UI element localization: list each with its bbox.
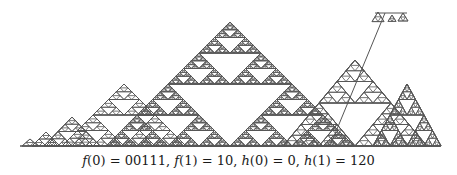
caption-part: h — [241, 153, 249, 168]
sierpinski-fractal-diagram — [0, 0, 457, 150]
caption-part: (0) = 0, — [250, 153, 304, 168]
caption-part: (1) = 120 — [312, 153, 374, 168]
caption-part: (0) = 00111, — [87, 153, 174, 168]
fractal-triangles — [22, 12, 441, 146]
figure-caption: f(0) = 00111, f(1) = 10, h(0) = 0, h(1) … — [0, 150, 457, 172]
caption-part: (1) = 10, — [179, 153, 241, 168]
